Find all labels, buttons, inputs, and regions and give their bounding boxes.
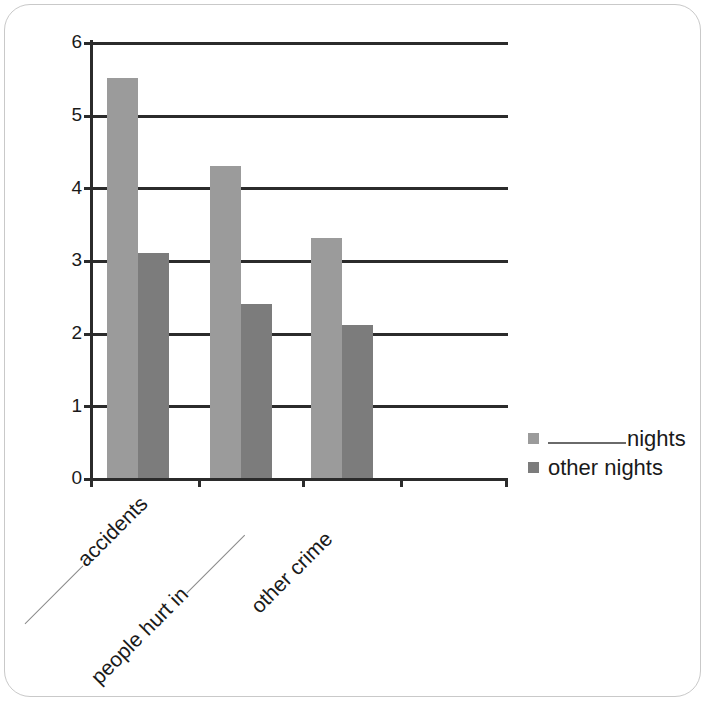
gridline-5 [90, 115, 508, 118]
y-tick-label-5: 5 [52, 104, 82, 126]
plot-area [90, 42, 508, 478]
y-tick-label-2: 2 [52, 322, 82, 344]
bar-people-hurt-in-other-nights[interactable] [241, 304, 272, 478]
y-tick-label-0: 0 [52, 467, 82, 489]
legend-label-nights-text: nights [627, 426, 686, 451]
y-tick-label-6: 6 [52, 31, 82, 53]
y-tick-label-1: 1 [52, 395, 82, 417]
bar-people-hurt-in-nights[interactable] [210, 166, 241, 478]
y-tick-label-4: 4 [52, 177, 82, 199]
blank-line-icon [548, 442, 626, 444]
legend-swatch-icon [528, 462, 539, 473]
legend-item-other-nights[interactable]: other nights [528, 453, 703, 482]
gridline-4 [90, 187, 508, 190]
bar-other-crime-other-nights[interactable] [342, 325, 373, 478]
x-tick-mark-3 [400, 478, 403, 487]
legend-label-nights: nights [548, 426, 686, 452]
gridline-6 [90, 42, 508, 45]
legend-label-other-nights: other nights [548, 455, 663, 481]
x-tick-mark-1 [198, 478, 201, 487]
legend-item-nights[interactable]: nights [528, 424, 703, 453]
x-tick-mark-2 [302, 478, 305, 487]
y-tick-label-3: 3 [52, 249, 82, 271]
x-tick-mark-4 [505, 478, 508, 487]
chart-page: 6 5 4 3 2 1 0 [0, 0, 709, 705]
bar-accidents-nights[interactable] [107, 78, 138, 478]
bar-other-crime-nights[interactable] [311, 238, 342, 478]
chart-legend: nights other nights [528, 424, 703, 482]
x-tick-mark-0 [90, 478, 93, 487]
x-axis-line [90, 478, 508, 481]
legend-swatch-icon [528, 433, 539, 444]
bar-accidents-other-nights[interactable] [138, 253, 169, 478]
